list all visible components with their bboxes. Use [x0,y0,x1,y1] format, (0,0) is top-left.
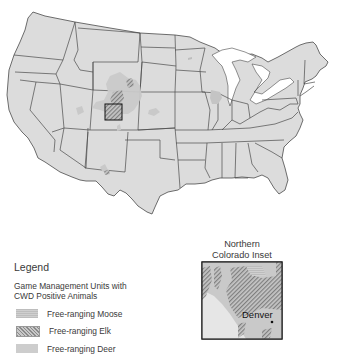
legend-label: Free-ranging Moose [47,309,122,319]
inset-title: Northern Colorado Inset [200,239,284,260]
inset-locator-box [105,104,122,120]
denver-marker [271,321,274,324]
inset-title-line2: Colorado Inset [200,250,284,261]
legend-subtitle: Game Management Units with CWD Positive … [14,281,194,301]
legend-item-moose: Free-ranging Moose [14,305,194,323]
inset-title-line1: Northern [200,239,284,250]
legend-label: Free-ranging Deer [47,344,115,354]
legend-item-elk: Free-ranging Elk [14,323,194,341]
us-land [7,12,328,214]
deer-swatch-icon [16,344,38,353]
legend-subtitle-line2: CWD Positive Animals [14,291,194,301]
legend-subtitle-line1: Game Management Units with [14,281,194,291]
elk-swatch-icon [16,326,40,337]
inset-map [202,262,282,339]
denver-label: Denver [242,309,273,320]
legend-item-deer: Free-ranging Deer [14,340,194,358]
legend-label: Free-ranging Elk [49,326,111,336]
legend: Legend Game Management Units with CWD Po… [14,261,194,358]
legend-title: Legend [14,261,194,273]
moose-swatch-icon [16,309,38,318]
